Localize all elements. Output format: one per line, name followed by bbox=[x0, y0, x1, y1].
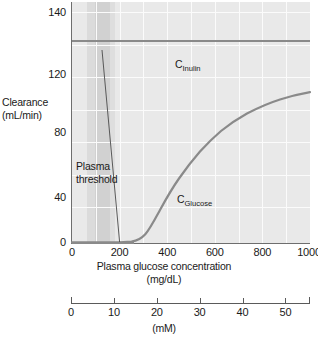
y-tick-label: 120 bbox=[40, 69, 66, 80]
y-tick-label: 80 bbox=[40, 127, 66, 138]
mm-tick-label: 0 bbox=[56, 306, 86, 318]
x-tick-label: 400 bbox=[147, 246, 187, 258]
series-label-inulin-sub: Inulin bbox=[182, 64, 200, 73]
y-axis-title-line1: Clearance bbox=[2, 96, 68, 109]
y-axis-title-line2: (mL/min) bbox=[2, 109, 68, 122]
mm-tick bbox=[114, 298, 115, 304]
mm-axis-line bbox=[71, 303, 310, 304]
mm-tick bbox=[157, 298, 158, 304]
mm-tick bbox=[285, 298, 286, 304]
mm-tick-label: 40 bbox=[228, 306, 258, 318]
mm-tick bbox=[71, 298, 72, 304]
mm-tick-label: 10 bbox=[99, 306, 129, 318]
plasma-threshold-line1: Plasma bbox=[76, 160, 117, 173]
y-tick-label: 40 bbox=[40, 192, 66, 203]
mm-tick bbox=[243, 298, 244, 304]
y-tick-label: 140 bbox=[40, 7, 66, 18]
mm-tick-label: 30 bbox=[185, 306, 215, 318]
mm-tick-label: 50 bbox=[270, 306, 300, 318]
plasma-threshold-annotation: Plasma threshold bbox=[76, 160, 117, 185]
mm-axis-end-right bbox=[309, 297, 310, 304]
x-axis-title: Plasma glucose concentration (mg/dL) bbox=[48, 260, 280, 286]
x-tick-label: 1000 bbox=[289, 246, 318, 258]
mm-tick-label: 20 bbox=[142, 306, 172, 318]
series-label-glucose: CGlucose bbox=[177, 193, 212, 208]
y-axis-title: Clearance (mL/min) bbox=[2, 96, 68, 122]
x-tick-label: 0 bbox=[52, 246, 92, 258]
x-axis-title-line2: (mg/dL) bbox=[48, 273, 280, 286]
series-label-inulin: CInulin bbox=[175, 58, 201, 73]
x-axis-title-line1: Plasma glucose concentration bbox=[48, 260, 280, 273]
chart-root: 140 120 80 40 0 0 200 400 600 800 1000 C… bbox=[0, 0, 318, 337]
x-tick-label: 600 bbox=[195, 246, 235, 258]
mm-axis-unit-label: (mM) bbox=[48, 322, 280, 334]
x-tick-label: 200 bbox=[100, 246, 140, 258]
x-tick-label: 800 bbox=[242, 246, 282, 258]
plasma-threshold-line2: threshold bbox=[76, 173, 117, 186]
series-label-glucose-sub: Glucose bbox=[184, 199, 212, 208]
mm-tick bbox=[200, 298, 201, 304]
